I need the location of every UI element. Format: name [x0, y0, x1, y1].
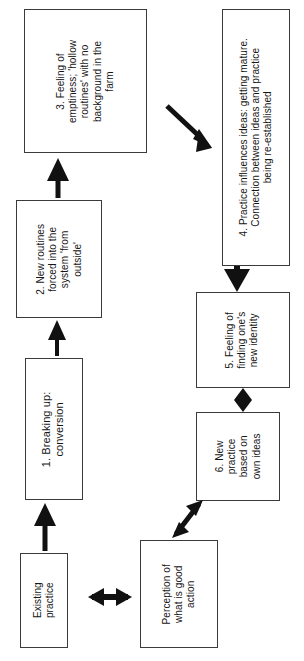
node-existing-practice[interactable]: Existing practice	[20, 553, 68, 648]
node-box-4[interactable]: 4. Practice influences ideas: getting ma…	[222, 9, 290, 266]
connector-existing-to-perception	[88, 588, 132, 606]
connector-box4-to-box5	[224, 266, 250, 292]
connector-box6-to-perception	[172, 500, 203, 538]
connector-box2-to-box3	[47, 158, 69, 198]
connector-box1-to-box2	[48, 320, 66, 356]
node-box-2-label: 2. New routines forced into the system '…	[35, 224, 84, 295]
node-box-2[interactable]: 2. New routines forced into the system '…	[16, 200, 102, 318]
node-perception-label: Perception of what is good action	[161, 564, 198, 624]
node-box-6-label: 6. New practice based on own ideas	[214, 434, 263, 480]
node-perception[interactable]: Perception of what is good action	[140, 540, 218, 648]
diagram-canvas: 3. Feeling of emptiness; 'hollow routine…	[0, 0, 304, 661]
node-box-5[interactable]: 5. Feeling of finding one's new identity	[196, 292, 290, 388]
node-box-1-label: 1. Breaking up: conversion	[41, 391, 68, 467]
node-box-3-label: 3. Feeling of emptiness; 'hollow routine…	[55, 39, 116, 122]
node-existing-practice-label: Existing practice	[32, 583, 56, 619]
connector-existing-to-box1	[34, 503, 56, 551]
connector-box5-to-box6	[234, 388, 252, 412]
node-box-4-label: 4. Practice influences ideas: getting ma…	[238, 38, 275, 237]
node-box-5-label: 5. Feeling of finding one's new identity	[225, 311, 262, 368]
node-box-6[interactable]: 6. New practice based on own ideas	[196, 412, 280, 501]
node-box-1[interactable]: 1. Breaking up: conversion	[25, 358, 83, 500]
node-box-3[interactable]: 3. Feeling of emptiness; 'hollow routine…	[24, 9, 147, 153]
connector-box3-to-box4	[167, 106, 212, 152]
